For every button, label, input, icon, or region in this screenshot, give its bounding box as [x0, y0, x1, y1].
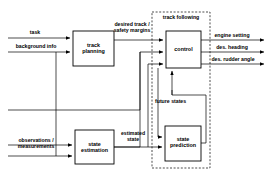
- state-prediction-label: state prediction: [165, 136, 201, 148]
- signal-label-task: task: [10, 30, 60, 36]
- signal-label-des-heading: des. heading: [204, 45, 260, 51]
- signal-label-future-states: future states: [155, 99, 209, 105]
- track-planning-label: track planning: [73, 42, 114, 54]
- diagram-canvas: track planning state estimation control …: [0, 0, 270, 175]
- signal-label-des-rudder-angle: des. rudder angle: [203, 57, 263, 63]
- state-estimation-label: state estimation: [75, 141, 114, 153]
- signal-label-desired-track: desired track / safety margins: [106, 22, 158, 34]
- signal-label-engine-setting: engine setting: [204, 33, 260, 39]
- signal-label-estimated-state: estimated state: [114, 131, 152, 143]
- track-following-label: track following: [152, 15, 210, 21]
- signal-label-background-info: background info: [8, 44, 64, 50]
- signal-label-observations: observations / measurements: [6, 138, 66, 150]
- control-label: control: [166, 46, 201, 52]
